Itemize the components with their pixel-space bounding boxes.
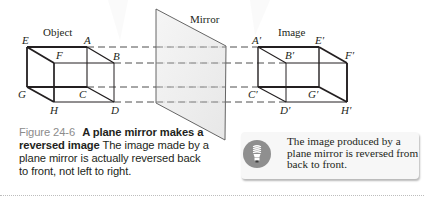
vertex-label-C-prime: C′ <box>248 88 258 100</box>
vertex-label-D: D <box>110 104 119 116</box>
object-cube <box>27 47 114 102</box>
vertex-label-B: B <box>113 50 120 62</box>
vertex-label-E-prime: E′ <box>314 34 325 46</box>
vertex-label-H-prime: H′ <box>340 104 352 116</box>
vertex-label-A: A <box>83 34 91 46</box>
image-cube <box>258 47 347 102</box>
mirror-label: Mirror <box>190 13 220 25</box>
vertex-label-A-prime: A′ <box>251 34 262 46</box>
tip-text: The image produced by a plane mirror is … <box>287 136 419 171</box>
vertex-label-F: F <box>55 49 63 61</box>
vertex-label-F-prime: F′ <box>344 49 355 61</box>
object-label: Object <box>43 26 72 38</box>
vertex-label-E: E <box>21 34 29 46</box>
image-label: Image <box>278 26 306 38</box>
bottom-divider <box>0 195 424 196</box>
vertex-label-D-prime: D′ <box>279 104 291 116</box>
vertex-label-G-prime: G′ <box>308 88 319 100</box>
figure-number: Figure 24-6 <box>19 126 75 138</box>
mirror-plane <box>156 9 226 140</box>
figure-caption: Figure 24-6 A plane mirror makes a rever… <box>19 126 209 178</box>
vertex-label-H: H <box>49 104 59 116</box>
vertex-label-C: C <box>79 88 87 100</box>
vertex-label-B-prime: B′ <box>285 49 295 61</box>
vertex-label-G: G <box>18 88 26 100</box>
lightbulb-icon <box>243 140 271 168</box>
